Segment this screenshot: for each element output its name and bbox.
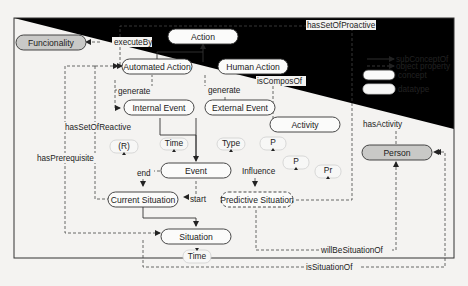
edge-label-hassetofreactive: hasSetOfReactive <box>64 122 134 132</box>
svg-text:object property: object property <box>396 62 451 71</box>
ontology-diagram: Funcionality Action Automated Action Hum… <box>0 0 468 286</box>
node-internal-event[interactable]: Internal Event <box>124 100 194 115</box>
svg-text:Human Action: Human Action <box>226 62 280 72</box>
svg-text:External Event: External Event <box>212 103 269 113</box>
edge-label-generate-external: generate <box>207 85 243 95</box>
svg-text:Automated Action: Automated Action <box>123 62 191 72</box>
datatype-r: (R) <box>110 140 138 155</box>
node-human-action[interactable]: Human Action <box>218 59 288 74</box>
svg-text:datatype: datatype <box>398 85 430 94</box>
svg-text:P: P <box>293 156 299 166</box>
edge-label-end: end <box>136 168 154 178</box>
svg-text:Time: Time <box>188 251 207 261</box>
svg-text:start: start <box>190 195 207 204</box>
datatype-time-event: Time <box>160 138 188 152</box>
svg-text:Activity: Activity <box>291 120 319 130</box>
node-predictive-situation[interactable]: Predictive Situation <box>220 192 294 207</box>
edge-label-issituationof: isSituationOf <box>305 262 359 272</box>
node-person[interactable]: Person <box>362 145 432 160</box>
node-current-situation[interactable]: Current Situation <box>108 192 178 207</box>
svg-text:hasPrerequisite: hasPrerequisite <box>37 154 94 163</box>
node-situation[interactable]: Situation <box>161 229 231 244</box>
svg-text:Situation: Situation <box>179 232 213 242</box>
svg-text:willBeSituationOf: willBeSituationOf <box>320 246 384 255</box>
datatype-time-situation: Time <box>183 248 211 263</box>
svg-text:Pr: Pr <box>324 165 333 175</box>
svg-text:(R): (R) <box>118 141 130 151</box>
svg-text:generate: generate <box>208 86 241 95</box>
svg-text:Person: Person <box>383 148 410 158</box>
svg-text:Internal Event: Internal Event <box>132 103 186 113</box>
svg-text:generate: generate <box>118 87 151 96</box>
svg-text:Time: Time <box>165 138 184 148</box>
node-external-event[interactable]: External Event <box>205 100 275 115</box>
svg-text:executeBy: executeBy <box>114 38 153 47</box>
svg-text:Predictive Situation: Predictive Situation <box>220 195 294 205</box>
node-action[interactable]: Action <box>168 29 238 44</box>
svg-text:Current Situation: Current Situation <box>111 195 176 205</box>
edge-label-hasactivity: hasActivity <box>362 119 410 129</box>
node-funcionality[interactable]: Funcionality <box>16 35 86 50</box>
node-event[interactable]: Event <box>161 163 231 178</box>
svg-text:Event: Event <box>185 166 208 176</box>
edge-label-generate-internal: generate <box>117 86 153 96</box>
edge-label-start: start <box>189 194 211 204</box>
svg-text:hasSetOfProactive: hasSetOfProactive <box>307 21 376 30</box>
svg-text:Influence: Influence <box>242 167 276 176</box>
datatype-p-influence: P <box>283 156 309 170</box>
svg-text:P: P <box>270 137 276 147</box>
svg-text:Action: Action <box>191 32 215 42</box>
svg-text:concept: concept <box>398 71 427 80</box>
edge-label-hassetofproactive: hasSetOfProactive <box>306 20 376 30</box>
edge-label-iscomposof: isComposOf <box>256 76 306 86</box>
svg-text:Funcionality: Funcionality <box>28 38 75 48</box>
edge-label-hasprerequisite: hasPrerequisite <box>36 153 96 163</box>
datatype-type: Type <box>217 138 245 152</box>
datatype-pr: Pr <box>315 165 341 179</box>
edge-label-executeby: executeBy <box>112 37 153 47</box>
node-automated-action[interactable]: Automated Action <box>122 59 192 74</box>
svg-text:Type: Type <box>222 138 240 148</box>
svg-text:hasSetOfReactive: hasSetOfReactive <box>65 123 131 132</box>
datatype-p-top: P <box>260 137 286 151</box>
edge-label-influence: Influence <box>241 166 281 176</box>
svg-text:end: end <box>137 169 151 178</box>
edge-label-willbesituationof: willBeSituationOf <box>320 245 392 255</box>
svg-text:isComposOf: isComposOf <box>257 77 303 86</box>
svg-text:isSituationOf: isSituationOf <box>306 263 353 272</box>
node-activity[interactable]: Activity <box>270 117 340 132</box>
svg-text:hasActivity: hasActivity <box>363 120 403 129</box>
